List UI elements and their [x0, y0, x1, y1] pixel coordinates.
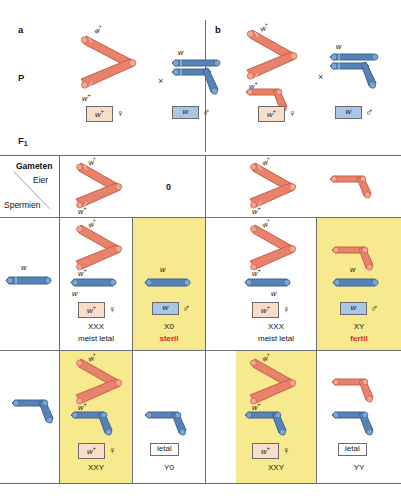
allele-chip-wildtype: w+ — [86, 106, 113, 122]
cell-b-12-x-paternal — [333, 277, 381, 289]
cell-b-11-genotype: XXX — [236, 322, 316, 332]
letal-chip: letal — [150, 443, 179, 456]
cell-b-22-y-maternal — [332, 377, 378, 409]
male-symbol-icon: ♂ — [202, 107, 210, 118]
parent-chip-mother-a: w+ ♀ — [86, 106, 124, 122]
egg-gamete-a-nullo: 0 — [166, 182, 171, 192]
chromosome-attached-x-mother-b — [245, 28, 307, 84]
allele-chip-wildtype: w+ — [78, 302, 105, 318]
allele-chip-mutant: w — [172, 106, 199, 119]
cell-a-11-label-mid: w+ — [78, 267, 87, 278]
cell-b-22-chip: letal — [338, 443, 367, 456]
cell-b-11-note: meist letal — [236, 334, 316, 344]
cell-b-21-genotype: XXY — [236, 463, 316, 473]
egg-gamete-b-attached-x — [248, 161, 304, 211]
cell-b-11-attached-x — [248, 223, 304, 273]
female-symbol-icon: ♀ — [108, 304, 116, 315]
chromosome-label-father-b: w — [336, 42, 341, 51]
grid-vline-rowheader — [59, 155, 60, 483]
allele-chip-wildtype: w+ — [252, 302, 279, 318]
allele-chip-mutant: w — [335, 106, 362, 119]
allele-chip-wildtype: w+ — [78, 443, 105, 459]
cell-b-22-y-paternal — [332, 410, 378, 442]
sperm-gamete-y — [12, 398, 58, 430]
grid-vline-b-inner — [316, 217, 317, 483]
male-symbol-icon: ♂ — [365, 107, 373, 118]
parent-chip-mother-b: w+ ♀ — [258, 106, 296, 122]
cell-b-21-chip: w+ ♀ — [252, 443, 290, 459]
female-symbol-icon: ♀ — [288, 108, 296, 119]
grid-vline-panel-split — [205, 155, 206, 483]
chromosome-pair-father-b — [330, 52, 386, 96]
cell-a-22-genotype: Y0 — [133, 463, 205, 473]
gameten-header-label: Gameten — [16, 161, 52, 171]
egg-gamete-b-y — [330, 174, 376, 204]
male-symbol-icon: ♂ — [182, 303, 190, 314]
female-symbol-icon: ♀ — [282, 304, 290, 315]
cross-symbol-b: × — [318, 72, 323, 82]
cell-b-12-genotype: XY — [317, 322, 401, 332]
cell-b-11-x-paternal — [245, 277, 293, 289]
cell-a-11-x-paternal — [71, 277, 119, 289]
cell-a-11-attached-x — [74, 223, 130, 273]
cell-b-11-label-bottom: w — [271, 289, 276, 298]
allele-chip-wildtype: w+ — [258, 106, 285, 122]
cell-a-11-genotype: XXX — [60, 322, 132, 332]
chromosome-label-father-a: w — [178, 48, 183, 57]
allele-chip-mutant: w — [152, 302, 179, 315]
cell-a-12-chip: w ♂ — [152, 302, 190, 315]
cell-a-12-note: steril — [133, 334, 205, 344]
eier-label: Eier — [33, 175, 48, 185]
f1-row-label: F1 — [18, 135, 28, 147]
panel-label-b: b — [215, 24, 221, 35]
cell-b-12-chip: w ♂ — [340, 302, 378, 315]
cell-a-21-attached-x — [74, 357, 130, 407]
cell-b-11-label-mid: w+ — [252, 267, 261, 278]
grid-hline-bottom — [0, 483, 401, 484]
egg-gamete-b-label-bottom: w+ — [252, 205, 261, 216]
cell-a-21-genotype: XXY — [60, 463, 132, 473]
chromosome-attached-x-mother-a — [78, 33, 148, 95]
cell-a-12-x-paternal — [145, 277, 193, 289]
letal-chip: letal — [338, 443, 367, 456]
punnett-grid: Gameten Eier Spermien — [0, 155, 401, 493]
sperm-gamete-x — [6, 275, 54, 287]
parent-chip-father-a: w ♂ — [172, 106, 210, 119]
allele-chip-wildtype: w+ — [252, 443, 279, 459]
female-symbol-icon: ♀ — [282, 445, 290, 456]
chromosome-label-mother-a-bottom: w+ — [82, 92, 91, 103]
figure-root: a b P F1 w+ w+ × — [0, 0, 401, 500]
cell-b-11-chip: w+ ♀ — [252, 302, 290, 318]
cell-a-11-label-bottom: w — [72, 289, 77, 298]
cell-b-12-label: w — [350, 265, 355, 274]
f1-subscript: 1 — [24, 140, 28, 147]
sperm-gamete-x-label: w — [21, 263, 26, 272]
cell-a-22-chip: letal — [150, 443, 179, 456]
chromosome-pair-father-a — [172, 58, 228, 102]
cell-a-12-label: w — [160, 265, 165, 274]
spermien-label: Spermien — [4, 200, 40, 210]
cell-a-11-note: meist letal — [60, 334, 132, 344]
cell-a-12-genotype: X0 — [133, 322, 205, 332]
panel-label-a: a — [18, 24, 23, 35]
cell-b-22-genotype: YY — [317, 463, 401, 473]
female-symbol-icon: ♀ — [116, 108, 124, 119]
allele-chip-mutant: w — [340, 302, 367, 315]
grid-vline-a-inner — [132, 217, 133, 483]
cross-symbol-a: × — [158, 76, 163, 86]
parent-chip-father-b: w ♂ — [335, 106, 373, 119]
cell-b-21-y-paternal — [245, 410, 291, 442]
cell-b-12-note: fertil — [317, 334, 401, 344]
egg-gamete-a-attached-x — [74, 161, 130, 211]
female-symbol-icon: ♀ — [108, 445, 116, 456]
cell-b-21-attached-x — [248, 357, 304, 407]
egg-gamete-a-label-bottom: w+ — [78, 205, 87, 216]
cell-a-11-chip: w+ ♀ — [78, 302, 116, 318]
cell-a-21-y-paternal — [71, 410, 117, 442]
cell-a-21-chip: w+ ♀ — [78, 443, 116, 459]
cell-a-22-y-paternal — [145, 410, 191, 442]
parental-row-label: P — [18, 72, 24, 83]
male-symbol-icon: ♂ — [370, 303, 378, 314]
